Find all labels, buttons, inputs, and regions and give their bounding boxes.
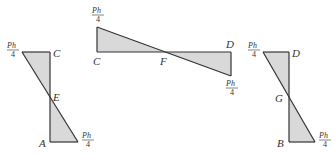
svg-text:4: 4	[252, 50, 256, 59]
middle-moment-diagram: C F D Ph 4 Ph 4	[91, 6, 238, 97]
svg-text:Ph: Ph	[81, 131, 91, 140]
load-label-fraction: Ph 4	[91, 6, 104, 24]
left-moment-diagram: C E A Ph 4 Ph 4	[6, 41, 94, 149]
svg-text:4: 4	[96, 15, 100, 24]
point-label-b: B	[277, 137, 284, 149]
point-label-g: G	[275, 92, 283, 104]
point-label-f: F	[159, 55, 167, 67]
load-label-fraction: Ph 4	[318, 131, 331, 149]
point-label-e: E	[52, 91, 60, 103]
point-label-a: A	[38, 137, 46, 149]
svg-text:4: 4	[323, 140, 327, 149]
point-label-d: D	[291, 47, 300, 59]
load-label-fraction: Ph 4	[225, 79, 238, 97]
svg-text:Ph: Ph	[225, 79, 235, 88]
right-moment-diagram: D G B Ph 4 Ph 4	[247, 41, 331, 149]
moment-diagrams: C E A Ph 4 Ph 4 C F D Ph 4 Ph	[0, 0, 332, 159]
load-label-fraction: Ph 4	[81, 131, 94, 149]
svg-text:Ph: Ph	[6, 41, 16, 50]
point-label-d: D	[225, 38, 234, 50]
load-label-fraction: Ph 4	[247, 41, 260, 59]
svg-text:4: 4	[86, 140, 90, 149]
load-label-fraction: Ph 4	[6, 41, 19, 59]
svg-text:4: 4	[230, 88, 234, 97]
point-label-c: C	[53, 47, 61, 59]
svg-text:Ph: Ph	[318, 131, 328, 140]
svg-text:Ph: Ph	[247, 41, 257, 50]
point-label-c: C	[93, 55, 101, 67]
svg-text:4: 4	[11, 50, 15, 59]
svg-text:Ph: Ph	[91, 6, 101, 15]
